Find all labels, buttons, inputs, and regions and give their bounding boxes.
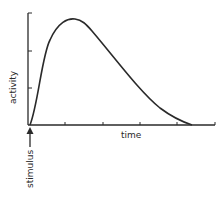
activity-curve: [30, 19, 192, 125]
x-axis-label: time: [121, 130, 142, 140]
stimulus-label: stimulus: [25, 150, 35, 188]
stimulus-arrow-head: [27, 127, 34, 134]
y-axis-label: activity: [8, 70, 18, 104]
response-curve-chart: activity time stimulus: [0, 0, 222, 205]
